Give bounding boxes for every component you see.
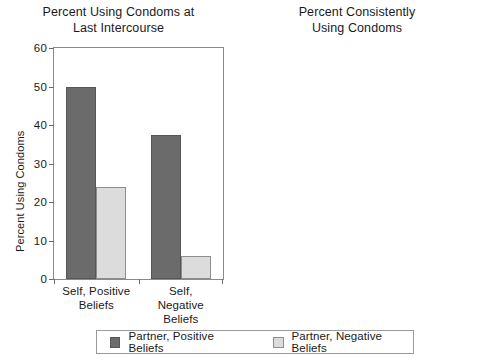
bar bbox=[96, 187, 126, 279]
bar bbox=[181, 256, 211, 279]
y-axis-tick-label: 30 bbox=[34, 158, 54, 170]
legend-swatch-icon bbox=[110, 337, 120, 348]
y-axis-tick-label: 10 bbox=[34, 235, 54, 247]
chart-title-right: Percent Consistently Using Condoms bbox=[237, 4, 477, 36]
legend-label: Partner, Negative Beliefs bbox=[292, 330, 413, 354]
x-axis-tick-mark bbox=[54, 279, 55, 284]
y-axis-tick-label: 50 bbox=[34, 81, 54, 93]
legend-entry: Partner, Positive Beliefs bbox=[110, 330, 245, 354]
chart-panel-left: Percent Using Condoms at Last Intercours… bbox=[0, 0, 237, 318]
y-axis-tick-label: 0 bbox=[40, 273, 54, 285]
legend-entry: Partner, Negative Beliefs bbox=[273, 330, 413, 354]
x-axis-tick-mark bbox=[222, 279, 223, 284]
plot-area-left: 0102030405060Self, Positive BeliefsSelf,… bbox=[53, 47, 224, 280]
chart-legend: Partner, Positive Beliefs Partner, Negat… bbox=[96, 330, 414, 354]
chart-title-left: Percent Using Condoms at Last Intercours… bbox=[0, 4, 237, 36]
chart-panel-right: Percent Consistently Using Condoms Perce… bbox=[237, 0, 477, 318]
x-axis-tick-mark bbox=[139, 279, 140, 284]
y-axis-tick-label: 20 bbox=[34, 196, 54, 208]
x-axis-tick-label: Self, Negative Beliefs bbox=[158, 284, 204, 326]
y-axis-tick-label: 40 bbox=[34, 119, 54, 131]
bar bbox=[66, 87, 96, 280]
y-axis-label-left: Percent Using Condoms bbox=[14, 131, 26, 252]
x-axis-tick-label: Self, Positive Beliefs bbox=[62, 284, 130, 312]
figure: Percent Using Condoms at Last Intercours… bbox=[0, 0, 477, 362]
legend-label: Partner, Positive Beliefs bbox=[128, 330, 245, 354]
legend-swatch-icon bbox=[273, 337, 283, 348]
bar bbox=[151, 135, 181, 279]
y-axis-tick-label: 60 bbox=[34, 42, 54, 54]
